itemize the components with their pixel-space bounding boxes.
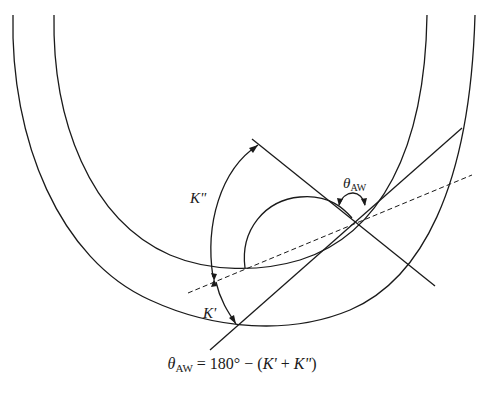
arrowhead-k-prime-bottom — [229, 315, 236, 324]
k-double-prime-arc — [211, 145, 258, 277]
eq-k-prime: K' — [263, 355, 277, 372]
eq-theta-subscript: AW — [175, 362, 192, 374]
droplet-curve — [244, 197, 352, 268]
eq-k-double-prime: K" — [294, 355, 311, 372]
inner-u-curve — [54, 15, 427, 268]
outer-u-curve — [13, 15, 475, 326]
arrowhead-theta-right — [361, 198, 367, 206]
arrowhead-k-prime-top2 — [211, 273, 217, 281]
eq-rhs: = 180° − ( — [193, 355, 263, 372]
contact-angle-diagram — [0, 0, 484, 395]
theta-aw-label: θAW — [343, 176, 366, 191]
k-double-prime-label: K" — [190, 191, 206, 206]
tangent-line — [210, 128, 462, 350]
contact-angle-equation: θAW = 180° − (K' + K") — [0, 355, 484, 373]
k-prime-label: K' — [203, 306, 216, 321]
k-double-prime-text: K" — [190, 190, 206, 206]
eq-plus: + — [277, 355, 294, 372]
eq-close-paren: ) — [311, 355, 316, 372]
k-prime-text: K' — [203, 305, 216, 321]
theta-subscript: AW — [350, 182, 366, 193]
dashed-reference-line — [188, 175, 472, 293]
arrowhead-k-double-prime — [249, 145, 258, 153]
normal-line — [252, 139, 435, 286]
